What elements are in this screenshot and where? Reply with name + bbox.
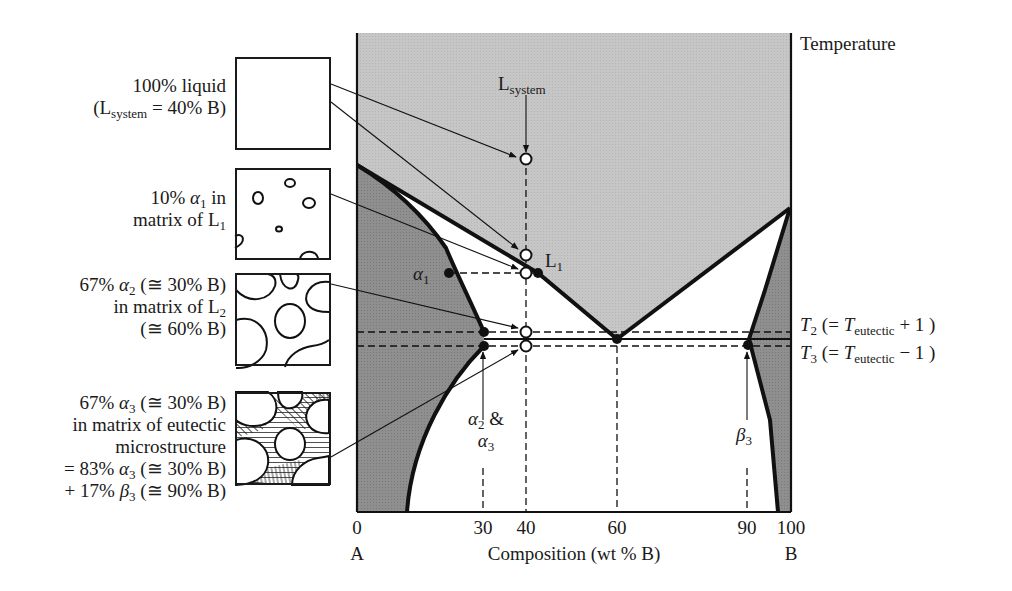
caption-liquid-line2: (Lsystem = 40% B) (93, 97, 226, 119)
l1-point (533, 268, 543, 278)
t1-point (521, 268, 532, 279)
t3-label: T3 (= Teutectic − 1 ) (800, 342, 935, 364)
caption-alpha2-line1: 67% α2 (≅ 30% B) (80, 274, 226, 296)
caption-alpha3-line5: + 17% β3 (≅ 90% B) (64, 480, 226, 502)
l-system-point (521, 154, 532, 165)
alpha2-alpha3-label: α2 & α3 (458, 408, 514, 452)
caption-alpha1-line1: 10% α1 in (133, 187, 226, 209)
x-axis-label: Composition (wt % B) (464, 543, 684, 565)
pre-l1-point (521, 250, 532, 261)
x-end-label-b: B (781, 543, 801, 565)
alpha1-label: α1 (413, 263, 429, 285)
alpha2-point (479, 327, 489, 337)
x-tick-40: 40 (512, 517, 540, 539)
y-axis-label: Temperature (800, 33, 896, 55)
alpha3-point (479, 341, 489, 351)
microstructure-box-liquid (235, 57, 331, 150)
microstructure-box-alpha2 (235, 273, 331, 366)
caption-alpha3: 67% α3 (≅ 30% B) in matrix of eutectic m… (64, 392, 226, 502)
l1-label: L1 (545, 250, 563, 272)
x-end-label-a: A (347, 543, 367, 565)
caption-alpha2-line3: (≅ 60% B) (80, 318, 226, 340)
caption-alpha2-line2: in matrix of L2 (80, 296, 226, 318)
caption-alpha1: 10% α1 in matrix of L1 (133, 187, 226, 231)
t3-point (521, 341, 532, 352)
caption-alpha3-line3: microstructure (64, 436, 226, 458)
x-tick-0: 0 (347, 517, 367, 539)
caption-alpha3-line2: in matrix of eutectic (64, 414, 226, 436)
x-tick-60: 60 (603, 517, 631, 539)
t2-label: T2 (= Teutectic + 1 ) (800, 314, 935, 336)
t2-point (521, 327, 532, 338)
beta3-label: β3 (736, 424, 752, 446)
l-system-label: Lsystem (498, 73, 546, 95)
microstructure-box-alpha1 (235, 168, 331, 260)
microstructure-box-alpha3 (235, 392, 331, 485)
x-tick-90: 90 (733, 517, 761, 539)
caption-alpha3-line4: = 83% α3 (≅ 30% B) (64, 458, 226, 480)
alpha1-point (444, 268, 454, 278)
caption-alpha1-line2: matrix of L1 (133, 209, 226, 231)
eutectic-point (612, 334, 622, 344)
caption-liquid: 100% liquid (Lsystem = 40% B) (93, 75, 226, 119)
x-tick-30: 30 (469, 517, 497, 539)
beta3-point (743, 340, 753, 350)
caption-alpha2: 67% α2 (≅ 30% B) in matrix of L2 (≅ 60% … (80, 274, 226, 340)
caption-alpha3-line1: 67% α3 (≅ 30% B) (64, 392, 226, 414)
x-tick-100: 100 (773, 517, 809, 539)
caption-liquid-line1: 100% liquid (93, 75, 226, 97)
